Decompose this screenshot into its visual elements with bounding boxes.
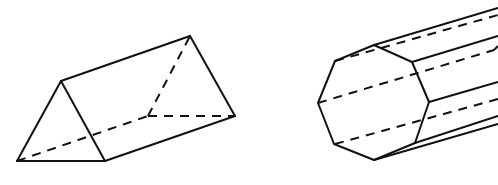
triangular-prism bbox=[17, 36, 235, 161]
octagonal-prism-visible-edge bbox=[415, 116, 498, 143]
octagonal-prism-hidden-edge bbox=[494, 46, 498, 50]
triangular-prism-visible-edge bbox=[61, 81, 105, 161]
triangular-prism-visible-edge bbox=[105, 116, 235, 161]
octagonal-prism bbox=[318, 8, 498, 160]
octagonal-prism-visible-edge bbox=[429, 82, 498, 102]
octagonal-prism-visible-edge bbox=[412, 36, 498, 62]
diagram-canvas bbox=[0, 0, 498, 185]
triangular-prism-visible-edge bbox=[61, 36, 190, 81]
octagonal-prism-visible-edge bbox=[374, 124, 498, 160]
octagonal-prism-visible-edge bbox=[374, 8, 498, 45]
triangular-prism-hidden-edge bbox=[17, 116, 148, 161]
prisms-diagram bbox=[0, 0, 498, 185]
octagonal-prism-hidden-edge bbox=[335, 15, 498, 61]
triangular-prism-visible-edge bbox=[190, 36, 235, 116]
